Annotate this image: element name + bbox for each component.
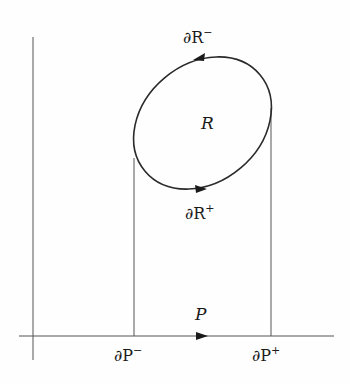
label-sup: + [205, 202, 214, 215]
label-projection: P [195, 306, 206, 323]
label-base: ∂R [185, 204, 205, 223]
projection-label: P [195, 304, 206, 324]
label-projection-left: ∂P− [114, 346, 142, 364]
label-boundary-upper: ∂R− [183, 28, 213, 46]
diagram-svg [0, 0, 350, 383]
label-base: ∂R [183, 28, 203, 47]
region-label: R [201, 113, 214, 133]
upper-boundary-arrow-icon [193, 53, 205, 61]
label-base: ∂P [114, 346, 133, 365]
projection-arrow-icon [196, 332, 208, 340]
label-sup: − [133, 344, 142, 357]
label-region: R [201, 115, 214, 132]
diagram-canvas: ∂R− R ∂R+ P ∂P− ∂P+ [0, 0, 350, 383]
label-projection-right: ∂P+ [252, 346, 280, 364]
label-base: ∂P [252, 346, 271, 365]
label-sup: − [203, 26, 212, 39]
label-sup: + [271, 344, 280, 357]
label-boundary-lower: ∂R+ [185, 204, 215, 222]
